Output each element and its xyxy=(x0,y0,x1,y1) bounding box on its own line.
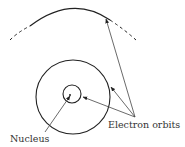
nucleus-label: Nucleus xyxy=(10,133,49,144)
electron-orbits-label: Electron orbits xyxy=(108,119,180,130)
outer-orbit xyxy=(10,8,136,40)
inner-orbit xyxy=(36,60,110,134)
arrow-outer-orbit xyxy=(106,19,135,117)
nucleus-dot xyxy=(69,94,71,96)
nucleus-orbit xyxy=(63,85,81,103)
arrow-nucleus xyxy=(45,96,70,132)
